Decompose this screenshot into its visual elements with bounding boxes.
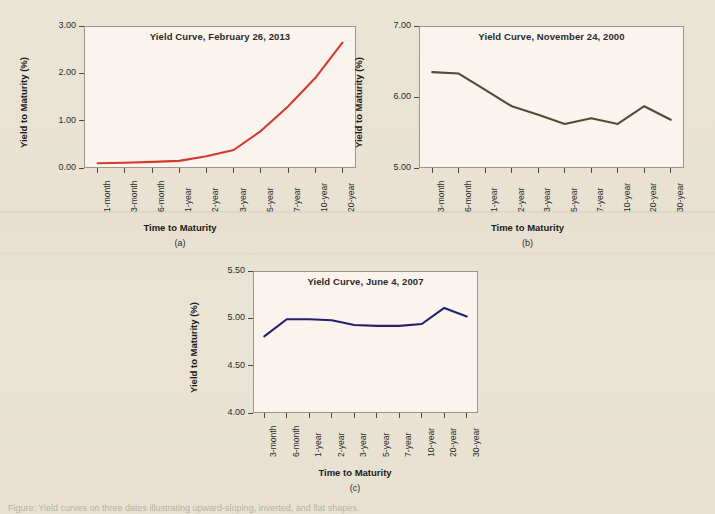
yield-curve-line bbox=[0, 0, 715, 514]
x-axis-label: Time to Maturity bbox=[175, 467, 535, 478]
figure-caption: Figure: Yield curves on three dates illu… bbox=[8, 503, 708, 514]
panel-letter: (c) bbox=[175, 483, 535, 493]
figure-page: Yield Curve, February 26, 2013Yield to M… bbox=[0, 0, 715, 514]
